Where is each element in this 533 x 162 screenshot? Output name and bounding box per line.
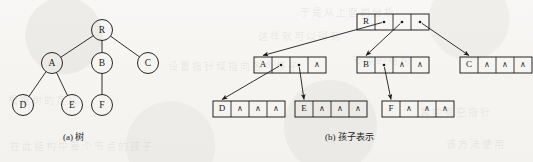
record-data-D: D bbox=[219, 103, 226, 113]
record-F: F∧∧∧ bbox=[382, 101, 454, 117]
record-data-F: F bbox=[388, 103, 393, 113]
tree-node-label-A: A bbox=[49, 58, 56, 68]
tree-edge-R-C bbox=[111, 36, 140, 57]
record-nil-D-2: ∧ bbox=[273, 104, 279, 113]
tree-edge-R-A bbox=[61, 36, 93, 57]
record-C: C∧∧∧ bbox=[460, 57, 532, 73]
caption-child-representation: (b) 孩子表示 bbox=[325, 130, 374, 143]
tree-layer: RABCDEF bbox=[13, 20, 159, 116]
record-A: A∧ bbox=[254, 57, 326, 73]
tree-node-label-C: C bbox=[145, 58, 151, 68]
child-link-A-E bbox=[299, 67, 304, 99]
record-pointer-dot-B-0 bbox=[383, 64, 386, 67]
child-link-R-C bbox=[422, 23, 469, 55]
record-data-B: B bbox=[363, 59, 369, 69]
tree-node-label-D: D bbox=[20, 100, 27, 110]
record-data-A: A bbox=[260, 59, 267, 69]
record-data-E: E bbox=[301, 103, 307, 113]
record-nil-C-0: ∧ bbox=[484, 60, 490, 69]
record-R: R bbox=[357, 14, 429, 30]
record-nil-F-1: ∧ bbox=[424, 104, 430, 113]
record-nil-A-2: ∧ bbox=[314, 60, 320, 69]
record-nil-B-2: ∧ bbox=[417, 60, 423, 69]
record-nil-E-0: ∧ bbox=[319, 104, 325, 113]
caption-tree: (a) 树 bbox=[63, 130, 84, 143]
record-E: E∧∧∧ bbox=[295, 101, 367, 117]
record-data-R: R bbox=[363, 16, 369, 26]
record-nil-B-1: ∧ bbox=[399, 60, 405, 69]
record-nil-E-2: ∧ bbox=[355, 104, 361, 113]
record-data-C: C bbox=[466, 59, 472, 69]
child-representation-layer: RA∧B∧∧C∧∧∧D∧∧∧E∧∧∧F∧∧∧ bbox=[213, 14, 532, 117]
record-nil-D-0: ∧ bbox=[237, 104, 243, 113]
record-pointer-dot-A-0 bbox=[280, 64, 283, 67]
record-nil-F-0: ∧ bbox=[406, 104, 412, 113]
child-link-R-A bbox=[263, 23, 382, 56]
record-nil-C-2: ∧ bbox=[520, 60, 526, 69]
record-D: D∧∧∧ bbox=[213, 101, 285, 117]
child-link-R-B bbox=[366, 24, 400, 56]
record-nil-D-1: ∧ bbox=[255, 104, 261, 113]
tree-edge-A-D bbox=[29, 72, 46, 97]
record-nil-E-1: ∧ bbox=[337, 104, 343, 113]
record-nil-C-1: ∧ bbox=[502, 60, 508, 69]
figure-canvas: 于是从上面的分析这样就可以得到节点的结构设置指针域指向各个孩子根据树的定义在此结… bbox=[0, 0, 533, 162]
tree-edge-A-E bbox=[57, 72, 68, 95]
record-pointer-dot-R-1 bbox=[401, 21, 404, 24]
record-pointer-dot-R-0 bbox=[383, 21, 386, 24]
tree-node-label-B: B bbox=[99, 58, 105, 68]
tree-node-label-E: E bbox=[69, 100, 75, 110]
tree-node-label-R: R bbox=[99, 25, 106, 35]
record-nil-F-2: ∧ bbox=[442, 104, 448, 113]
record-B: B∧∧ bbox=[357, 57, 429, 73]
tree-node-label-F: F bbox=[99, 100, 104, 110]
record-pointer-dot-R-2 bbox=[419, 21, 422, 24]
child-link-A-D bbox=[222, 66, 279, 99]
record-pointer-dot-A-1 bbox=[298, 64, 301, 67]
child-link-B-F bbox=[384, 67, 391, 99]
